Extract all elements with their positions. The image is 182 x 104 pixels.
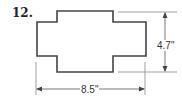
width-label: 8.5" [80,84,99,95]
height-label: 4.7" [156,40,175,51]
arrow-left-icon [36,87,42,92]
arrow-right-icon [139,87,145,92]
arrow-up-icon [163,12,168,18]
arrow-down-icon [163,66,168,72]
shape-outline [37,11,146,72]
